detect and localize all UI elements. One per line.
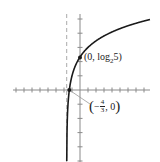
label-y-intercept: (0, log25) xyxy=(84,52,122,65)
point-x-intercept xyxy=(67,88,71,92)
point-y-intercept xyxy=(78,56,82,60)
graph-canvas xyxy=(0,0,160,162)
label-x-intercept: (−43, 0) xyxy=(89,99,120,114)
